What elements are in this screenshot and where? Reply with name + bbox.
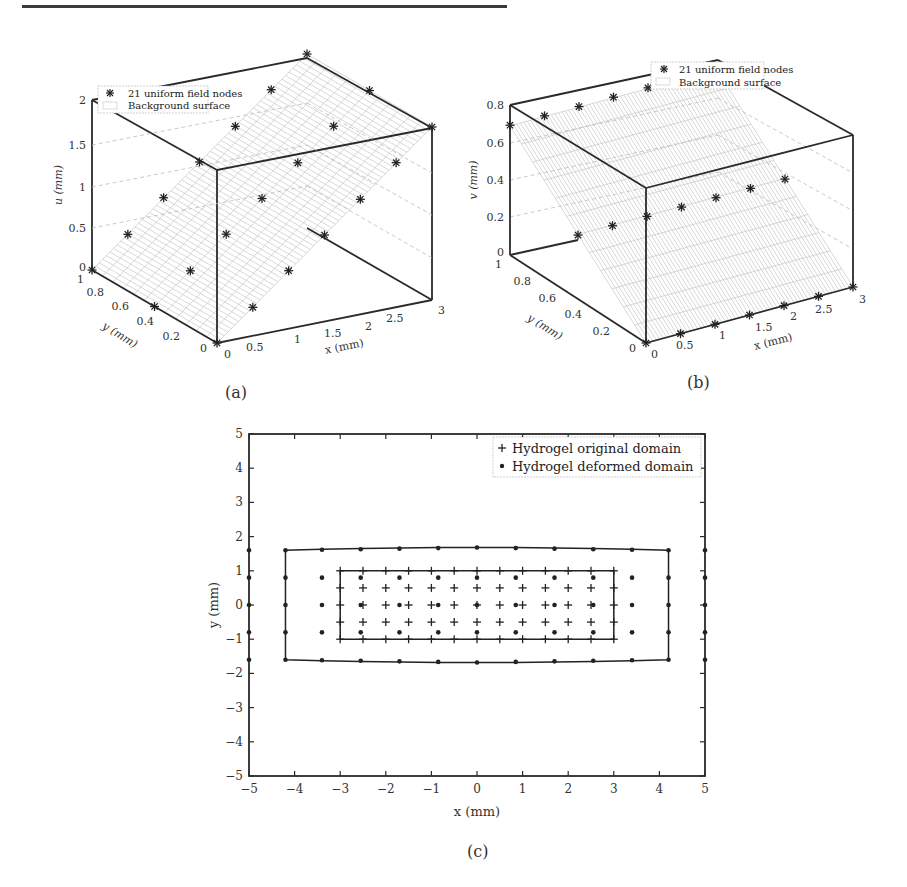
plus-marker-icon bbox=[496, 618, 504, 626]
plot-c-legend: Hydrogel original domain Hydrogel deform… bbox=[493, 437, 701, 477]
dot-marker-icon bbox=[475, 575, 480, 580]
dot-marker-icon bbox=[703, 630, 708, 635]
plus-marker-icon bbox=[382, 584, 390, 592]
asterisk-marker-icon bbox=[660, 65, 668, 73]
dot-marker-icon bbox=[397, 603, 402, 608]
dot-marker-icon bbox=[591, 575, 596, 580]
dot-marker-icon bbox=[436, 660, 441, 665]
plus-marker-icon bbox=[496, 567, 504, 575]
dot-marker-icon bbox=[630, 603, 635, 608]
svg-text:0.5: 0.5 bbox=[246, 341, 264, 354]
asterisk-marker-icon bbox=[676, 329, 685, 338]
svg-text:2: 2 bbox=[564, 782, 572, 796]
asterisk-marker-icon bbox=[781, 175, 790, 184]
asterisk-marker-icon bbox=[222, 230, 231, 239]
dot-marker-icon bbox=[397, 575, 402, 580]
dot-marker-icon bbox=[283, 575, 288, 580]
asterisk-marker-icon bbox=[428, 123, 437, 132]
dot-marker-icon bbox=[247, 657, 252, 662]
plus-marker-icon bbox=[336, 567, 344, 575]
plus-marker-icon bbox=[519, 618, 527, 626]
svg-text:3: 3 bbox=[235, 495, 243, 509]
panel-label-c: (c) bbox=[467, 842, 488, 861]
svg-text:1.5: 1.5 bbox=[69, 139, 87, 152]
plus-marker-icon bbox=[519, 635, 527, 643]
plus-marker-icon bbox=[587, 618, 595, 626]
plus-marker-icon bbox=[359, 584, 367, 592]
dot-marker-icon bbox=[247, 548, 252, 553]
plot-b-v-ticks: 0.8 0.6 0.4 0.2 0 bbox=[487, 99, 505, 259]
plus-marker-icon bbox=[382, 567, 390, 575]
svg-text:0: 0 bbox=[629, 342, 636, 355]
dot-marker-icon bbox=[591, 630, 596, 635]
asterisk-marker-icon bbox=[849, 283, 858, 292]
svg-text:4: 4 bbox=[656, 782, 664, 796]
plus-marker-icon bbox=[359, 635, 367, 643]
asterisk-marker-icon bbox=[392, 158, 401, 167]
svg-text:−4: −4 bbox=[225, 735, 243, 749]
plus-marker-icon bbox=[519, 584, 527, 592]
plot-a-legend: 21 uniform field nodes Background surfac… bbox=[98, 86, 242, 113]
asterisk-marker-icon bbox=[365, 86, 374, 95]
plus-marker-icon bbox=[336, 635, 344, 643]
svg-text:2.5: 2.5 bbox=[386, 312, 404, 325]
dot-marker-icon bbox=[666, 657, 671, 662]
plus-marker-icon bbox=[564, 584, 572, 592]
asterisk-marker-icon bbox=[258, 194, 267, 203]
asterisk-marker-icon bbox=[231, 122, 240, 131]
asterisk-marker-icon bbox=[814, 292, 823, 301]
plus-marker-icon bbox=[359, 567, 367, 575]
plot-b-legend: 21 uniform field nodes Background surfac… bbox=[651, 62, 793, 89]
plus-marker-icon bbox=[450, 584, 458, 592]
svg-text:2: 2 bbox=[235, 530, 243, 544]
svg-text:0.6: 0.6 bbox=[112, 300, 130, 313]
dot-marker-icon bbox=[666, 548, 671, 553]
plus-marker-icon bbox=[450, 618, 458, 626]
plus-marker-icon bbox=[427, 618, 435, 626]
asterisk-marker-icon bbox=[303, 50, 312, 59]
svg-text:1: 1 bbox=[495, 258, 502, 271]
svg-text:Background surface: Background surface bbox=[128, 100, 230, 111]
dot-marker-icon bbox=[247, 630, 252, 635]
dot-marker-icon bbox=[358, 575, 363, 580]
plus-marker-icon bbox=[427, 584, 435, 592]
plot-a-gridlines bbox=[92, 103, 432, 258]
dot-marker-icon bbox=[630, 658, 635, 663]
asterisk-marker-icon bbox=[284, 266, 293, 275]
svg-text:−2: −2 bbox=[377, 782, 395, 796]
asterisk-marker-icon bbox=[506, 121, 515, 130]
svg-text:1: 1 bbox=[79, 181, 86, 194]
plus-marker-icon bbox=[564, 567, 572, 575]
field-nodes-b bbox=[506, 65, 858, 348]
dot-marker-icon bbox=[500, 464, 504, 468]
plot-b-gridlines bbox=[510, 98, 853, 249]
dot-marker-icon bbox=[358, 603, 363, 608]
svg-text:0: 0 bbox=[235, 598, 243, 612]
plus-marker-icon bbox=[336, 601, 344, 609]
asterisk-marker-icon bbox=[123, 230, 132, 239]
dot-marker-icon bbox=[436, 546, 441, 551]
dot-marker-icon bbox=[475, 603, 480, 608]
svg-text:0.6: 0.6 bbox=[539, 292, 557, 305]
svg-text:−1: −1 bbox=[423, 782, 441, 796]
plus-marker-icon bbox=[610, 618, 618, 626]
dot-marker-icon bbox=[513, 630, 518, 635]
svg-text:0.5: 0.5 bbox=[69, 222, 87, 235]
dot-marker-icon bbox=[513, 660, 518, 665]
dot-marker-icon bbox=[591, 658, 596, 663]
plot-c-ylabel: y (mm) bbox=[206, 582, 221, 629]
asterisk-marker-icon bbox=[150, 302, 159, 311]
svg-text:0: 0 bbox=[224, 348, 231, 361]
dot-marker-icon bbox=[283, 548, 288, 553]
asterisk-marker-icon bbox=[780, 301, 789, 310]
svg-text:−3: −3 bbox=[331, 782, 349, 796]
plot-b-zlabel: v (mm) bbox=[467, 160, 480, 199]
dot-marker-icon bbox=[475, 630, 480, 635]
panel-label-a: (a) bbox=[225, 383, 247, 402]
dot-marker-icon bbox=[666, 575, 671, 580]
dot-marker-icon bbox=[397, 630, 402, 635]
plus-marker-icon bbox=[564, 618, 572, 626]
panel-label-b: (b) bbox=[687, 373, 710, 392]
asterisk-marker-icon bbox=[213, 339, 222, 348]
plot-b-ylabel: y (mm) bbox=[524, 311, 565, 343]
